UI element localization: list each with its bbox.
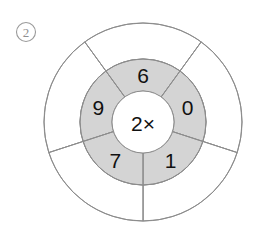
inner-number-sector-bottom: 1 bbox=[165, 149, 177, 172]
hub-operator-label: 2× bbox=[131, 112, 155, 135]
multiplication-wheel: 2 2× 96017 bbox=[0, 0, 275, 237]
worksheet-canvas: 2 2× 96017 bbox=[0, 0, 275, 237]
problem-marker: 2 bbox=[17, 23, 36, 42]
marker-number: 2 bbox=[23, 25, 30, 40]
inner-number-sector-left: 7 bbox=[110, 149, 122, 172]
inner-number-sector-right: 0 bbox=[182, 96, 194, 119]
inner-number-sector-top-left: 9 bbox=[92, 96, 104, 119]
inner-number-sector-top-right: 6 bbox=[137, 64, 149, 87]
